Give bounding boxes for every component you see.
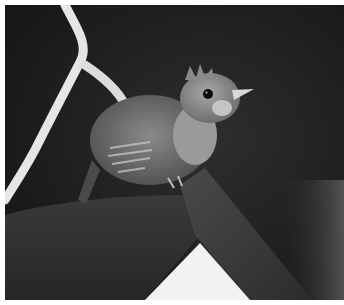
bird-photo-illustration (5, 5, 344, 300)
photo (5, 5, 344, 300)
bird-eye (203, 89, 213, 99)
